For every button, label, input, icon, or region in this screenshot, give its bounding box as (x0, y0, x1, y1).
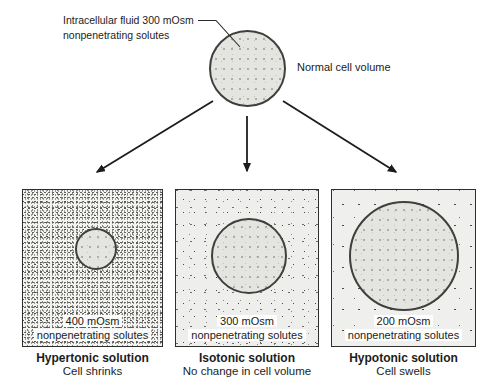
arrow-to-hypotonic (283, 101, 396, 172)
osmolarity-label-isotonic: 300 mOsm nonpenetrating solutes (176, 315, 318, 342)
annotation-line1: Intracellular fluid 300 mOsm (63, 13, 194, 28)
osmosis-tonicity-diagram: Intracellular fluid 300 mOsm nonpenetrat… (0, 0, 489, 388)
osmolarity-value: 300 mOsm (217, 315, 277, 327)
solutes-label: nonpenetrating solutes (345, 329, 462, 341)
caption-subtitle: Cell swells (331, 365, 476, 378)
osmolarity-label-hypotonic: 200 mOsm nonpenetrating solutes (332, 315, 475, 342)
normal-cell-volume-label: Normal cell volume (297, 61, 391, 73)
arrow-to-hypertonic (97, 101, 213, 172)
caption-hypertonic: Hypertonic solution Cell shrinks (22, 351, 163, 378)
caption-subtitle: No change in cell volume (167, 365, 327, 378)
panel-isotonic: 300 mOsm nonpenetrating solutes (175, 189, 319, 347)
intracellular-annotation: Intracellular fluid 300 mOsm nonpenetrat… (63, 13, 194, 43)
normal-cell (209, 30, 286, 107)
solutes-label: nonpenetrating solutes (34, 329, 151, 341)
unchanged-cell (211, 218, 287, 294)
caption-title: Hypotonic solution (331, 351, 476, 365)
shrunken-cell (75, 228, 117, 270)
panel-hypotonic: 200 mOsm nonpenetrating solutes (331, 189, 476, 347)
osmolarity-value: 400 mOsm (63, 315, 123, 327)
osmolarity-value: 200 mOsm (374, 315, 434, 327)
osmolarity-label-hypertonic: 400 mOsm nonpenetrating solutes (23, 315, 162, 342)
solutes-label: nonpenetrating solutes (188, 329, 305, 341)
caption-isotonic: Isotonic solution No change in cell volu… (167, 351, 327, 378)
caption-title: Isotonic solution (167, 351, 327, 365)
caption-hypotonic: Hypotonic solution Cell swells (331, 351, 476, 378)
annotation-line2: nonpenetrating solutes (63, 28, 194, 43)
caption-subtitle: Cell shrinks (22, 365, 163, 378)
panel-hypertonic: 400 mOsm nonpenetrating solutes (22, 189, 163, 347)
caption-title: Hypertonic solution (22, 351, 163, 365)
swollen-cell (349, 201, 459, 311)
